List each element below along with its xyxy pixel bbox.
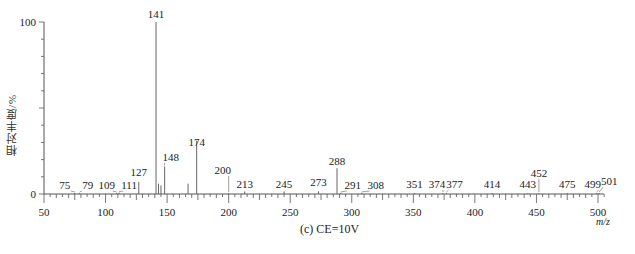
peak-label: 377 — [446, 178, 463, 190]
y-tick-label: 100 — [20, 16, 37, 28]
leader-line — [71, 191, 75, 192]
y-tick-label: 0 — [31, 188, 37, 200]
x-axis-label: m/z — [596, 216, 610, 227]
x-tick-label: 250 — [282, 206, 299, 218]
mass-spectrum-chart: 0100501001502002503003504004505007579109… — [0, 0, 635, 254]
x-tick-label: 200 — [220, 206, 237, 218]
leader-line — [362, 191, 370, 192]
peak-label: 174 — [188, 136, 205, 148]
peak-label: 79 — [82, 179, 94, 191]
peak-label: 288 — [329, 155, 346, 167]
x-tick-label: 300 — [344, 206, 361, 218]
peak-label: 200 — [214, 164, 231, 176]
peak-label: 308 — [367, 179, 384, 191]
peak-label: 443 — [520, 178, 537, 190]
x-tick-label: 50 — [39, 206, 51, 218]
peak-label: 291 — [344, 179, 361, 191]
y-axis-label: 相对丰度/% — [4, 80, 24, 170]
peak-label: 127 — [131, 166, 148, 178]
peak-label: 499 — [585, 178, 602, 190]
x-tick-label: 350 — [405, 206, 422, 218]
leader-line — [80, 191, 82, 192]
peak-label: 141 — [148, 8, 165, 20]
leader-line — [119, 191, 123, 192]
x-tick-label: 150 — [159, 206, 176, 218]
peak-label: 273 — [310, 176, 327, 188]
x-tick-label: 400 — [467, 206, 484, 218]
peak-label: 452 — [531, 167, 548, 179]
chart-caption: (c) CE=10V — [300, 222, 359, 237]
peak-label: 414 — [484, 178, 501, 190]
peak-label: 475 — [559, 178, 576, 190]
x-tick-label: 450 — [528, 206, 545, 218]
peak-label: 351 — [406, 178, 423, 190]
leader-line — [447, 190, 449, 192]
x-tick-label: 100 — [97, 206, 114, 218]
peak-label: 75 — [59, 179, 71, 191]
peak-label: 245 — [276, 178, 293, 190]
peak-label: 501 — [601, 175, 618, 187]
peak-label: 374 — [429, 178, 446, 190]
peak-label: 109 — [98, 179, 115, 191]
leader-line — [597, 190, 599, 192]
peak-label: 111 — [121, 179, 137, 191]
leader-line — [113, 191, 117, 192]
peak-label: 213 — [236, 178, 253, 190]
leader-line — [341, 191, 347, 192]
peak-label: 148 — [162, 151, 179, 163]
